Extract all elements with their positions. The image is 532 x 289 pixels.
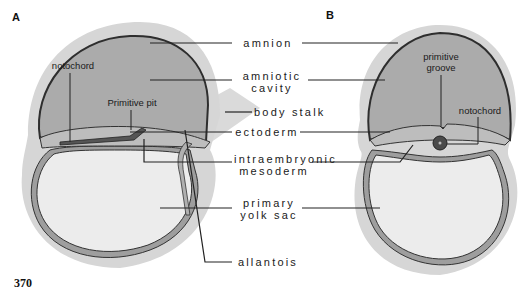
embryo-diagram: A B amnion amniotic cavity body stalk ec…: [0, 0, 532, 289]
page-number: 370: [14, 276, 32, 289]
label-primary-yolk-sac: primary yolk sac: [236, 197, 302, 221]
label-a-notochord: notochord: [46, 60, 100, 71]
label-b-notochord: notochord: [453, 105, 507, 116]
label-b-primitive-groove: primitive groove: [414, 51, 468, 73]
label-amnion: amnion: [236, 37, 300, 49]
label-a-primitive-pit: Primitive pit: [100, 97, 164, 108]
label-amniotic-cavity: amniotic cavity: [236, 70, 308, 94]
label-intraembryonic-mesoderm: intraembryonic mesoderm: [234, 153, 314, 177]
label-body-stalk: body stalk: [254, 106, 324, 118]
label-allantois: allantois: [236, 256, 300, 268]
embryo-a: [22, 22, 260, 268]
label-ectoderm: ectoderm: [234, 126, 300, 138]
panel-label-a: A: [12, 11, 20, 23]
panel-label-b: B: [326, 9, 334, 21]
